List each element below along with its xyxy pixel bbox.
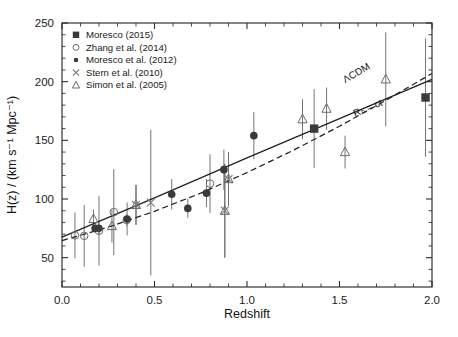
- y-tick-label: 200: [35, 76, 54, 88]
- legend-entry: Moresco et al. (2012): [74, 54, 177, 65]
- y-tick-label: 150: [35, 134, 54, 146]
- marker-filled-square: [421, 93, 429, 101]
- y-axis-title: H(z) / (km s⁻¹ Mpc⁻¹): [5, 96, 19, 214]
- legend-entry: Stern et al. (2010): [73, 67, 163, 78]
- y-tick-label: 100: [35, 193, 54, 205]
- legend-label: Moresco (2015): [86, 29, 153, 40]
- marker-filled-circle: [123, 215, 131, 223]
- x-tick-label: 1.5: [332, 294, 348, 306]
- marker-filled-square: [310, 124, 318, 132]
- legend-label: Zhang et al. (2014): [86, 42, 167, 53]
- x-tick-label: 0.5: [147, 294, 163, 306]
- x-axis-title: Redshift: [224, 307, 270, 321]
- x-tick-label: 2.0: [424, 294, 440, 306]
- y-tick-label: 50: [41, 252, 54, 264]
- y-tick-label: 250: [35, 17, 54, 29]
- legend-label: Simon et al. (2005): [86, 79, 167, 90]
- x-tick-label: 1.0: [239, 294, 255, 306]
- legend-entry: Simon et al. (2005): [72, 79, 167, 90]
- marker-filled-circle: [168, 191, 176, 199]
- marker-filled-circle: [250, 132, 258, 140]
- marker-filled-circle: [95, 225, 103, 233]
- marker-filled-circle: [203, 189, 211, 197]
- legend-entry: Zhang et al. (2014): [73, 42, 167, 53]
- marker-filled-circle: [220, 166, 228, 174]
- marker-filled-circle: [74, 58, 79, 63]
- hubble-parameter-figure: 0.00.51.01.52.0 50100150200250 Redshift …: [0, 0, 458, 337]
- marker-filled-square: [73, 32, 79, 38]
- x-tick-label: 0.0: [54, 294, 70, 306]
- marker-filled-circle: [184, 205, 192, 213]
- legend-label: Moresco et al. (2012): [86, 54, 177, 65]
- chart-canvas: 0.00.51.01.52.0 50100150200250 Redshift …: [0, 0, 458, 337]
- legend-label: Stern et al. (2010): [86, 67, 163, 78]
